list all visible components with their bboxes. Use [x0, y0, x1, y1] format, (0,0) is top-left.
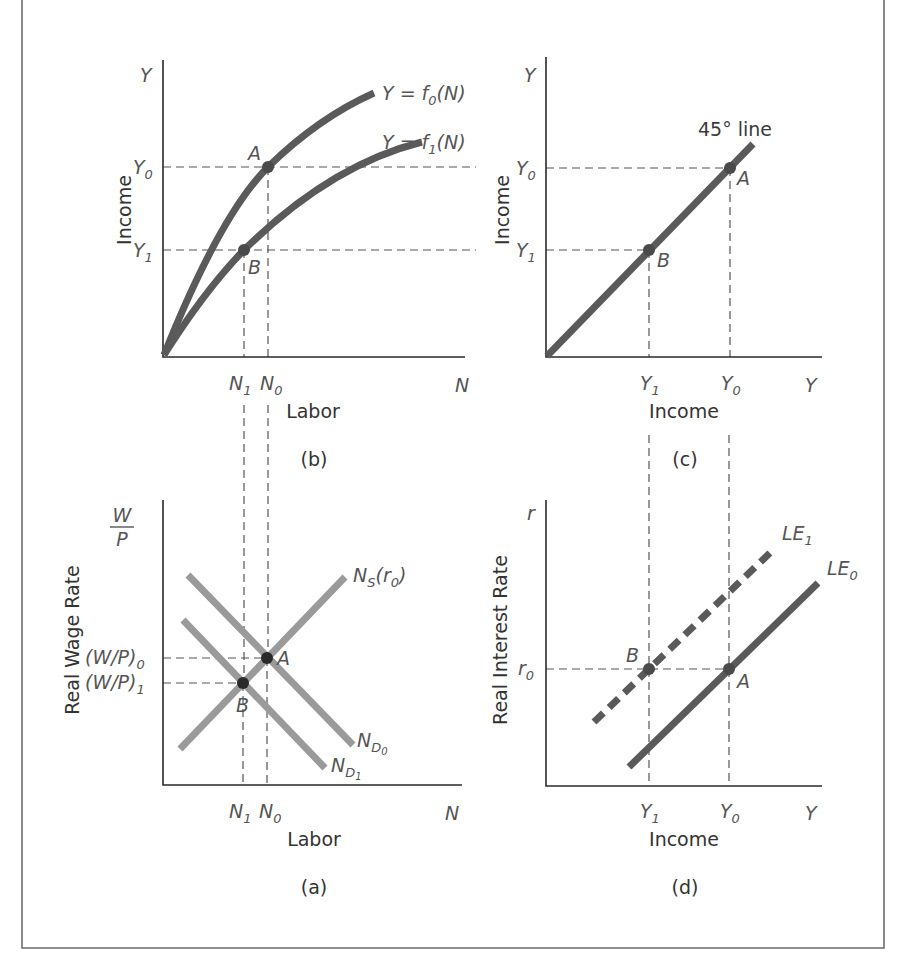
y-axis-label-a: Real Wage Rate: [61, 565, 83, 715]
point-b-c: [643, 244, 655, 256]
x-tick-y1-d: Y1: [640, 800, 660, 826]
x-axis-symbol-c: Y: [805, 374, 818, 396]
y-tick-wp1-a: (W/P)1: [85, 671, 145, 697]
point-label-b-d: B: [626, 644, 639, 666]
caption-b: (b): [301, 448, 328, 470]
point-label-b-c: B: [657, 249, 670, 271]
panel-d-le-line: r Y B A r0 Y1 Y0 LE1 LE0 Real Interest R…: [489, 500, 858, 898]
caption-c: (c): [672, 448, 697, 470]
x-tick-y0-c: Y0: [721, 372, 741, 398]
y-axis-symbol-b: Y: [140, 64, 153, 86]
x-axis-symbol-b: N: [455, 374, 469, 396]
x-axis-label-b: Labor: [286, 400, 340, 422]
point-a-a: [261, 652, 273, 664]
panel-c-45-degree-line: Y Y 45° line A B Y0 Y1 Y1 Y0 Income Inco…: [491, 57, 822, 470]
y-tick-wp0-a: (W/P)0: [85, 646, 145, 672]
panel-b-production-function: Y N A B Y0 Y1 N1 N0 Y = f0(N) Y = f1(N) …: [113, 60, 476, 470]
point-b-a: [237, 677, 249, 689]
axes-b: [163, 60, 465, 357]
y-axis-symbol-num-a: W: [113, 504, 133, 526]
x-axis-label-a: Labor: [287, 828, 341, 850]
x-axis-symbol-d: Y: [805, 802, 818, 824]
curve-labor-supply: [180, 577, 345, 749]
curve-label-f0: Y = f0(N): [382, 82, 466, 108]
point-label-b-a: B: [236, 694, 249, 716]
point-label-a-b: A: [246, 142, 261, 164]
y-axis-symbol-d: r: [527, 502, 536, 524]
x-axis-symbol-a: N: [445, 802, 459, 824]
x-tick-y0-d: Y0: [720, 800, 740, 826]
curve-le0: [629, 583, 818, 767]
y-axis-symbol-c: Y: [524, 64, 537, 86]
point-label-a-d: A: [735, 670, 750, 692]
y-axis-label-d: Real Interest Rate: [489, 555, 511, 725]
panel-a-labor-market: W P N A B (W/P)0 (W/P)1 N1 N0 NS(r0) ND0…: [61, 500, 462, 898]
label-le0: LE0: [827, 557, 858, 583]
point-b-d: [643, 663, 655, 675]
label-le1: LE1: [782, 522, 813, 548]
line-label-45: 45° line: [698, 118, 772, 140]
x-axis-label-d: Income: [649, 828, 719, 850]
four-panel-diagram: Y N A B Y0 Y1 N1 N0 Y = f0(N) Y = f1(N) …: [0, 0, 904, 961]
curve-f1: [164, 142, 422, 355]
point-b-b: [238, 244, 250, 256]
x-tick-y1-c: Y1: [640, 372, 660, 398]
point-a-d: [723, 663, 735, 675]
point-label-a-a: A: [275, 647, 290, 669]
y-axis-label-b: Income: [113, 175, 135, 245]
label-labor-demand-0: ND0: [357, 729, 388, 757]
axes-d: [546, 500, 822, 786]
y-tick-y0-b: Y0: [133, 156, 153, 182]
curve-le1: [594, 548, 775, 722]
point-a-b: [262, 161, 274, 173]
label-labor-supply: NS(r0): [353, 564, 406, 590]
x-tick-n1-b: N1: [229, 372, 252, 398]
y-axis-symbol-den-a: P: [116, 528, 128, 550]
label-labor-demand-1: ND1: [331, 754, 362, 782]
x-axis-label-c: Income: [649, 400, 719, 422]
x-tick-n0-a: N0: [259, 800, 282, 826]
point-a-c: [724, 162, 736, 174]
caption-d: (d): [672, 876, 699, 898]
y-tick-y1-c: Y1: [516, 239, 536, 265]
caption-a: (a): [301, 876, 327, 898]
x-tick-n1-a: N1: [229, 800, 252, 826]
y-tick-y0-c: Y0: [516, 157, 536, 183]
y-axis-label-c: Income: [491, 175, 513, 245]
point-label-a-c: A: [735, 167, 750, 189]
x-tick-n0-b: N0: [260, 372, 283, 398]
y-tick-y1-b: Y1: [133, 239, 153, 265]
point-label-b-b: B: [248, 256, 261, 278]
y-tick-r0-d: r0: [518, 657, 534, 683]
